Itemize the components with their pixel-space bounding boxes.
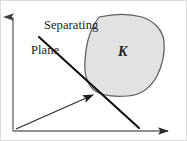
separating-plane-figure: Separating Plane K	[0, 0, 187, 141]
convex-set-label: K	[118, 44, 127, 60]
separating-plane-label-line2: Plane	[31, 44, 98, 57]
separating-plane-label: Separating Plane	[31, 6, 98, 81]
separating-plane-label-line1: Separating	[44, 18, 98, 32]
